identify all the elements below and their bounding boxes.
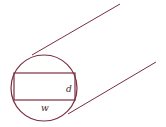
depth-label: d	[66, 84, 72, 94]
log-beam-diagram: d w	[0, 0, 166, 127]
top-tangent-line	[32, 4, 120, 55]
bottom-tangent-line	[68, 62, 156, 114]
width-label: w	[41, 103, 49, 113]
